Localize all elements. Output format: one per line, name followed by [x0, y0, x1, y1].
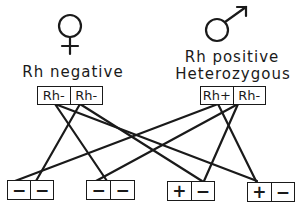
- offspring-2-allele-1: −: [87, 181, 110, 199]
- offspring-2-allele-2: −: [110, 181, 134, 199]
- male-genotype-box: Rh+ Rh-: [200, 86, 266, 105]
- offspring-box-4: + −: [247, 182, 295, 202]
- offspring-box-1: − −: [7, 180, 54, 200]
- offspring-3-allele-1: +: [168, 182, 191, 200]
- male-phenotype-label: Rh positive: [172, 48, 292, 66]
- female-allele-1: Rh-: [38, 87, 70, 104]
- female-genotype-box: Rh- Rh-: [37, 86, 103, 105]
- male-allele-1: Rh+: [201, 87, 233, 104]
- offspring-box-3: + −: [167, 181, 215, 201]
- female-symbol-icon: [59, 15, 81, 37]
- offspring-box-2: − −: [86, 180, 135, 200]
- rh-inheritance-diagram: Rh negative Rh positive Heterozygous Rh-…: [0, 0, 301, 207]
- male-genotype-label: Heterozygous: [168, 65, 298, 83]
- offspring-1-allele-1: −: [8, 181, 30, 199]
- offspring-3-allele-2: −: [191, 182, 215, 200]
- female-phenotype-label: Rh negative: [18, 63, 128, 81]
- offspring-4-allele-1: +: [248, 183, 271, 201]
- male-allele-2: Rh-: [233, 87, 266, 104]
- offspring-4-allele-2: −: [271, 183, 295, 201]
- offspring-1-allele-2: −: [30, 181, 53, 199]
- female-allele-2: Rh-: [70, 87, 103, 104]
